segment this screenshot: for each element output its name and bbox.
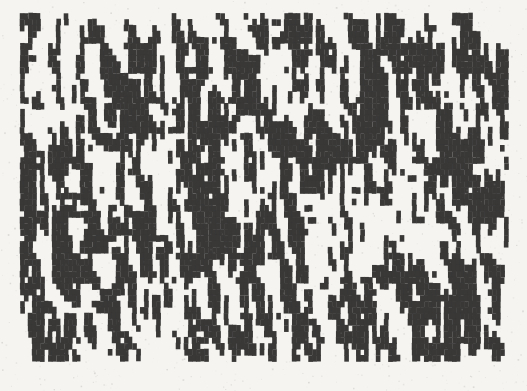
scanned-figure [0, 0, 527, 391]
binary-bar-pattern [0, 0, 527, 391]
